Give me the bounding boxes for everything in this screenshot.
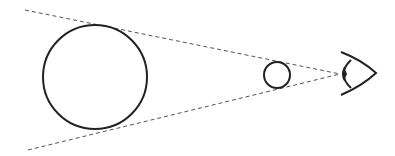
eye-icon — [341, 52, 376, 95]
sight-line-top — [25, 10, 340, 74]
small-circle — [264, 62, 290, 88]
sight-line-bottom — [28, 74, 340, 150]
large-circle — [43, 25, 147, 129]
line-of-sight-diagram — [0, 0, 395, 156]
